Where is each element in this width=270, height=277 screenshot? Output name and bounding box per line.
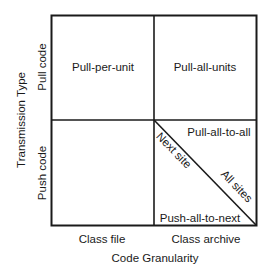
cell-pull-all-to-all: Pull-all-to-all <box>187 126 250 138</box>
y-axis-title: Transmission Type <box>15 72 27 168</box>
cell-pull-per-unit: Pull-per-unit <box>72 61 135 73</box>
column-label-class-archive: Class archive <box>171 233 240 245</box>
x-axis-title: Code Granularity <box>112 252 199 264</box>
row-label-pull-code: Pull code <box>36 43 48 90</box>
matrix-diagram: Transmission Type Pull code Push code Cl… <box>0 0 270 277</box>
cell-pull-all-units: Pull-all-units <box>174 61 237 73</box>
column-label-class-file: Class file <box>79 233 126 245</box>
row-label-push-code: Push code <box>36 146 48 200</box>
diagonal-label-all-sites: All sites <box>219 168 255 205</box>
cell-push-all-to-next: Push-all-to-next <box>160 212 241 224</box>
